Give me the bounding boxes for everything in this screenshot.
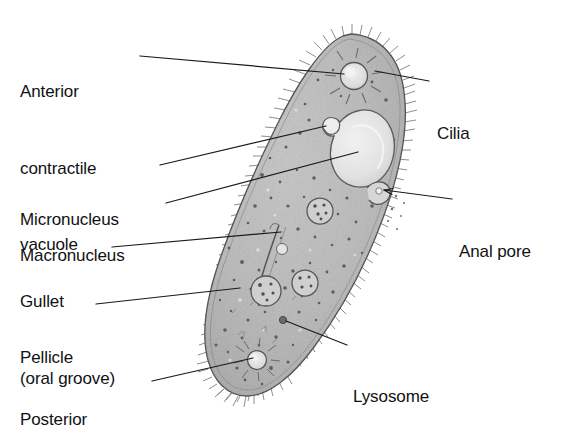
food-vacuole-upper	[307, 198, 333, 224]
lysosome-granule	[279, 316, 286, 323]
clear-vesicle	[277, 244, 288, 255]
label-line: Lysosome	[353, 384, 429, 410]
label-lysosome: Lysosome	[353, 333, 429, 435]
label-line: Cilia	[437, 121, 470, 147]
label-anal-pore: Anal pore	[459, 188, 531, 290]
label-posterior-contractile-vacuole: Posterior contractile vacuole	[20, 356, 96, 447]
diagram-canvas: Anterior contractile vacuole Micronucleu…	[0, 0, 576, 447]
label-line: Posterior	[20, 407, 96, 433]
food-vacuole-mid	[251, 276, 281, 306]
label-line: Anterior	[20, 79, 96, 105]
food-vacuole-lower	[292, 270, 318, 296]
label-line: Anal pore	[459, 239, 531, 265]
label-cilia: Cilia	[437, 70, 470, 172]
